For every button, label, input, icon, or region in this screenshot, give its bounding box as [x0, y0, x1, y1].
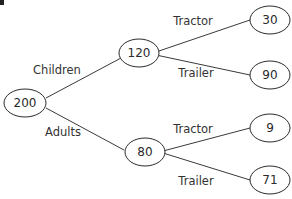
node-adults-trailer-value: 71	[262, 173, 277, 187]
node-children-trailer: 90	[250, 61, 290, 89]
edge-label-children-trailer: Trailer	[177, 66, 214, 80]
edge-label-adults-trailer: Trailer	[177, 174, 214, 188]
node-adults-tractor-value: 9	[266, 121, 274, 135]
node-children-tractor: 30	[250, 6, 290, 34]
node-adults: 80	[125, 138, 165, 166]
node-children-trailer-value: 90	[262, 68, 277, 82]
corner-mark	[0, 0, 4, 5]
edge-label-children-tractor: Tractor	[172, 14, 213, 28]
edge-label-adults: Adults	[45, 125, 81, 139]
node-adults-value: 80	[137, 145, 152, 159]
edge-label-adults-tractor: Tractor	[172, 122, 213, 136]
edge-label-children: Children	[33, 63, 81, 77]
node-root-value: 200	[14, 96, 37, 110]
node-adults-trailer: 71	[250, 166, 290, 194]
tree-diagram: Children Adults Tractor Trailer Tractor …	[0, 0, 292, 199]
node-children-tractor-value: 30	[262, 13, 277, 27]
node-root: 200	[4, 89, 46, 117]
node-children-value: 120	[128, 46, 151, 60]
node-adults-tractor: 9	[250, 114, 290, 142]
node-children: 120	[119, 39, 159, 67]
